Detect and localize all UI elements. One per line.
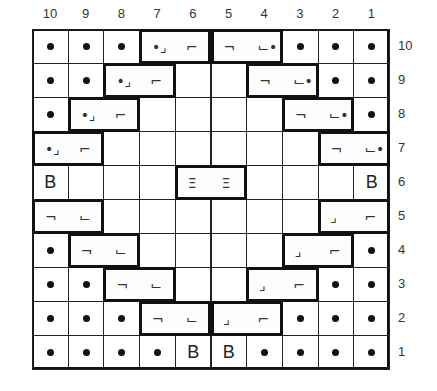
chart-cell	[353, 97, 390, 132]
bobble-symbol: B	[44, 172, 56, 193]
chart-cell	[211, 233, 248, 268]
chart-cell	[139, 97, 176, 132]
chart-cell	[103, 335, 140, 370]
chart-cell	[68, 335, 105, 370]
column-number-6: 6	[175, 6, 211, 21]
purl-dot-icon	[47, 43, 54, 50]
chart-cell	[175, 233, 212, 268]
knit-up-left-icon: ⌟	[331, 210, 338, 224]
row-number-7: 7	[398, 140, 420, 155]
column-number-1: 1	[353, 6, 389, 21]
cable-group-row-10: ¬⌙•	[211, 29, 283, 64]
purl-dot-icon	[332, 77, 339, 84]
row-number-1: 1	[398, 344, 420, 359]
chart-cell: B	[175, 335, 212, 370]
column-number-7: 7	[139, 6, 175, 21]
knit-down-icon: ¬	[295, 108, 307, 122]
purl-cross-left-icon: •⌟	[81, 108, 96, 122]
cable-group-row-9: ¬⌙•	[246, 63, 318, 98]
purl-dot-icon	[47, 247, 54, 254]
chart-cell	[353, 233, 390, 268]
cable-group-row-8: ¬⌙•	[282, 97, 354, 132]
knit-up-left-icon: ⌟	[224, 312, 231, 326]
cable-group-row-5: ¬⌙	[32, 199, 104, 234]
chart-cell	[139, 131, 176, 166]
knit-down-icon: ¬	[45, 210, 57, 224]
chart-cell	[175, 131, 212, 166]
purl-dot-icon	[47, 315, 54, 322]
purl-dot-icon	[118, 349, 125, 356]
purl-dot-icon	[154, 349, 161, 356]
purl-dot-icon	[332, 315, 339, 322]
cable-group-row-3: ⌟⌐	[246, 267, 318, 302]
chart-cell	[32, 29, 69, 64]
chart-cell	[211, 63, 248, 98]
bobble-symbol: B	[187, 342, 199, 363]
purl-dot-icon	[83, 349, 90, 356]
chart-cell: B	[32, 165, 69, 200]
row-number-6: 6	[398, 174, 420, 189]
purl-dot-icon	[368, 111, 375, 118]
chart-cell	[318, 63, 355, 98]
purl-dot-icon	[118, 43, 125, 50]
chart-cell	[282, 29, 319, 64]
chart-cell: B	[353, 165, 390, 200]
chart-cell	[353, 335, 390, 370]
chart-cell	[139, 233, 176, 268]
purl-dot-icon	[332, 349, 339, 356]
knit-down-right-icon: ⌙	[114, 244, 126, 258]
knit-down-icon: ¬	[152, 312, 164, 326]
chart-cell	[282, 199, 319, 234]
cable-group-row-9: •⌟⌐	[103, 63, 175, 98]
purl-dot-icon	[47, 349, 54, 356]
row-number-9: 9	[398, 72, 420, 87]
cable-group-row-2: ⌟⌐	[211, 301, 283, 336]
knit-up-icon: ⌐	[293, 278, 305, 292]
knit-up-left-icon: ⌟	[295, 244, 302, 258]
column-number-5: 5	[211, 6, 247, 21]
column-number-8: 8	[103, 6, 139, 21]
chart-cell	[103, 29, 140, 64]
knit-down-right-icon: ⌙	[150, 278, 162, 292]
knit-down-right-icon: ⌙	[79, 210, 91, 224]
chart-cell	[68, 63, 105, 98]
purl-dot-icon	[47, 77, 54, 84]
purl-dot-icon	[47, 281, 54, 288]
purl-cross-right-icon: ⌙•	[293, 74, 313, 88]
chart-cell	[353, 63, 390, 98]
purl-dot-icon	[297, 315, 304, 322]
chart-cell	[318, 267, 355, 302]
purl-dot-icon	[368, 247, 375, 254]
bar-icon: Ξ	[221, 176, 230, 190]
knit-up-icon: ⌐	[364, 210, 376, 224]
knit-down-right-icon: ⌙	[186, 312, 198, 326]
chart-cell	[68, 301, 105, 336]
chart-cell	[211, 131, 248, 166]
purl-dot-icon	[118, 315, 125, 322]
purl-dot-icon	[83, 315, 90, 322]
knit-up-icon: ⌐	[114, 108, 126, 122]
chart-cell	[68, 29, 105, 64]
cable-group-row-8: •⌟⌐	[68, 97, 140, 132]
knit-down-icon: ¬	[259, 74, 271, 88]
chart-cell	[139, 335, 176, 370]
purl-cross-right-icon: ⌙•	[257, 40, 277, 54]
chart-cell	[246, 165, 283, 200]
purl-dot-icon	[47, 111, 54, 118]
chart-cell	[246, 131, 283, 166]
purl-dot-icon	[261, 349, 268, 356]
chart-cell	[32, 335, 69, 370]
cable-group-row-4: ¬⌙	[68, 233, 140, 268]
purl-dot-icon	[83, 43, 90, 50]
purl-dot-icon	[297, 349, 304, 356]
chart-cell	[318, 29, 355, 64]
bobble-symbol: B	[366, 172, 378, 193]
chart-cell	[282, 131, 319, 166]
knit-down-icon: ¬	[81, 244, 93, 258]
chart-cell	[103, 131, 140, 166]
knit-down-icon: ¬	[116, 278, 128, 292]
chart-cell	[282, 165, 319, 200]
purl-dot-icon	[368, 77, 375, 84]
chart-cell	[282, 301, 319, 336]
chart-cell	[211, 199, 248, 234]
